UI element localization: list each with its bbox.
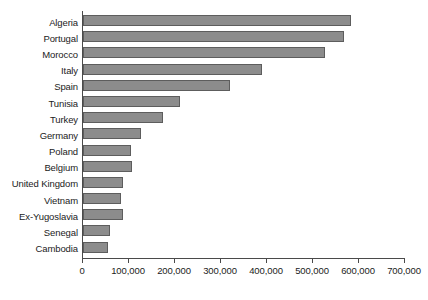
bar[interactable]	[83, 145, 131, 156]
category-label: Belgium	[44, 162, 78, 173]
bar[interactable]	[83, 31, 344, 42]
category-label-row: Spain	[0, 79, 78, 95]
x-tick-label: 200,000	[157, 265, 191, 276]
x-tick-label: 400,000	[249, 265, 283, 276]
category-label-row: Belgium	[0, 160, 78, 176]
category-label-row: Poland	[0, 144, 78, 160]
bar-row	[83, 111, 413, 127]
bar[interactable]	[83, 15, 351, 26]
x-tick-mark	[266, 258, 267, 263]
category-label-row: Portugal	[0, 30, 78, 46]
category-label: Ex-Yugoslavia	[19, 211, 78, 222]
bar-row	[83, 144, 413, 160]
category-label: Morocco	[42, 49, 78, 60]
category-label-row: Morocco	[0, 46, 78, 62]
category-label: Italy	[61, 65, 78, 76]
category-label: United Kingdom	[12, 178, 78, 189]
x-tick-mark	[174, 258, 175, 263]
bar[interactable]	[83, 209, 123, 220]
bar[interactable]	[83, 80, 230, 91]
bar[interactable]	[83, 96, 180, 107]
bar-chart: AlgeriaPortugalMoroccoItalySpainTunisiaT…	[0, 0, 428, 300]
x-tick-mark	[404, 258, 405, 263]
category-label: Algeria	[49, 17, 78, 28]
category-label-row: Turkey	[0, 111, 78, 127]
category-label: Senegal	[44, 227, 78, 238]
bar-row	[83, 46, 413, 62]
category-label-row: Senegal	[0, 224, 78, 240]
x-tick-label: 500,000	[295, 265, 329, 276]
category-label: Spain	[54, 81, 78, 92]
bar-row	[83, 79, 413, 95]
x-tick-label: 600,000	[341, 265, 375, 276]
bar[interactable]	[83, 64, 262, 75]
category-label: Poland	[49, 146, 78, 157]
bar-row	[83, 14, 413, 30]
category-label: Cambodia	[35, 243, 78, 254]
bar[interactable]	[83, 128, 141, 139]
bar-row	[83, 241, 413, 257]
bar[interactable]	[83, 161, 132, 172]
category-label-row: Germany	[0, 127, 78, 143]
x-tick-mark	[358, 258, 359, 263]
x-tick-label: 300,000	[203, 265, 237, 276]
x-tick-mark	[220, 258, 221, 263]
x-tick-label: 100,000	[111, 265, 145, 276]
category-label: Vietnam	[44, 195, 78, 206]
bar-row	[83, 224, 413, 240]
bar[interactable]	[83, 193, 121, 204]
bar-row	[83, 160, 413, 176]
bar-row	[83, 208, 413, 224]
bar-row	[83, 63, 413, 79]
bar-row	[83, 176, 413, 192]
bar[interactable]	[83, 112, 163, 123]
category-label: Turkey	[50, 114, 78, 125]
category-label-row: Vietnam	[0, 192, 78, 208]
category-label-row: Ex-Yugoslavia	[0, 208, 78, 224]
bar[interactable]	[83, 177, 123, 188]
x-axis-ticks: 0100,000200,000300,000400,000500,000600,…	[82, 258, 404, 288]
category-axis-labels: AlgeriaPortugalMoroccoItalySpainTunisiaT…	[0, 14, 78, 257]
category-label-row: Algeria	[0, 14, 78, 30]
x-tick-mark	[128, 258, 129, 263]
x-tick-mark	[312, 258, 313, 263]
bar-row	[83, 95, 413, 111]
category-label: Tunisia	[48, 98, 78, 109]
category-label-row: Italy	[0, 63, 78, 79]
category-label: Germany	[40, 130, 78, 141]
x-tick-label: 700,000	[387, 265, 421, 276]
bar-row	[83, 192, 413, 208]
bar-row	[83, 30, 413, 46]
category-label-row: Cambodia	[0, 241, 78, 257]
bar[interactable]	[83, 242, 108, 253]
category-label: Portugal	[43, 33, 78, 44]
bar[interactable]	[83, 47, 325, 58]
bar-series	[83, 14, 413, 257]
x-tick-label: 0	[79, 265, 84, 276]
category-label-row: United Kingdom	[0, 176, 78, 192]
bar-row	[83, 127, 413, 143]
x-tick-mark	[82, 258, 83, 263]
bar[interactable]	[83, 225, 110, 236]
category-label-row: Tunisia	[0, 95, 78, 111]
